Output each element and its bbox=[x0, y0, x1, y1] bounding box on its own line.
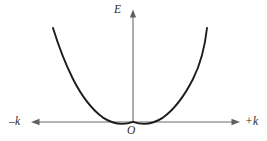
figure-canvas bbox=[0, 0, 267, 141]
x-axis-label-positive-k: +k bbox=[245, 116, 258, 128]
origin-label: O bbox=[127, 125, 136, 137]
x-axis-right-arrow-icon bbox=[232, 119, 241, 125]
x-axis-left-arrow-icon bbox=[31, 119, 40, 125]
y-axis-up-arrow-icon bbox=[130, 10, 136, 18]
x-axis-label-negative-k: –k bbox=[9, 116, 20, 128]
energy-dispersion-curve bbox=[53, 28, 207, 124]
y-axis-label-energy: E bbox=[114, 4, 121, 16]
energy-band-parabola-figure: E O –k +k bbox=[0, 0, 267, 141]
